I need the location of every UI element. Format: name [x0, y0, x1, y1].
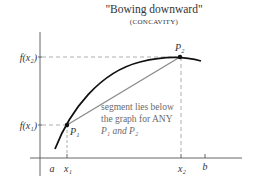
label-p2: P₂: [174, 42, 185, 53]
label-p1: P₁: [69, 126, 80, 137]
point-p2: [178, 55, 182, 59]
label-x1: x₁: [63, 163, 72, 174]
annotation-line-1: segment lies below: [101, 102, 174, 112]
label-b: b: [203, 161, 208, 172]
label-f-x2: f(x₂): [20, 52, 38, 64]
annotation-line-2: the graph for ANY: [101, 114, 173, 124]
label-f-x1: f(x₁): [20, 120, 38, 132]
label-x2: x₂: [177, 163, 186, 174]
annotation-line-3: P₁ and P₂: [100, 126, 139, 136]
diagram-title: "Bowing downward": [105, 3, 202, 16]
concavity-diagram: "Bowing downward" (CONCAVITY) P₁ P₂ f(x₂…: [0, 0, 257, 176]
point-p1: [65, 123, 69, 127]
diagram-subtitle: (CONCAVITY): [130, 18, 179, 26]
label-a: a: [50, 163, 55, 174]
